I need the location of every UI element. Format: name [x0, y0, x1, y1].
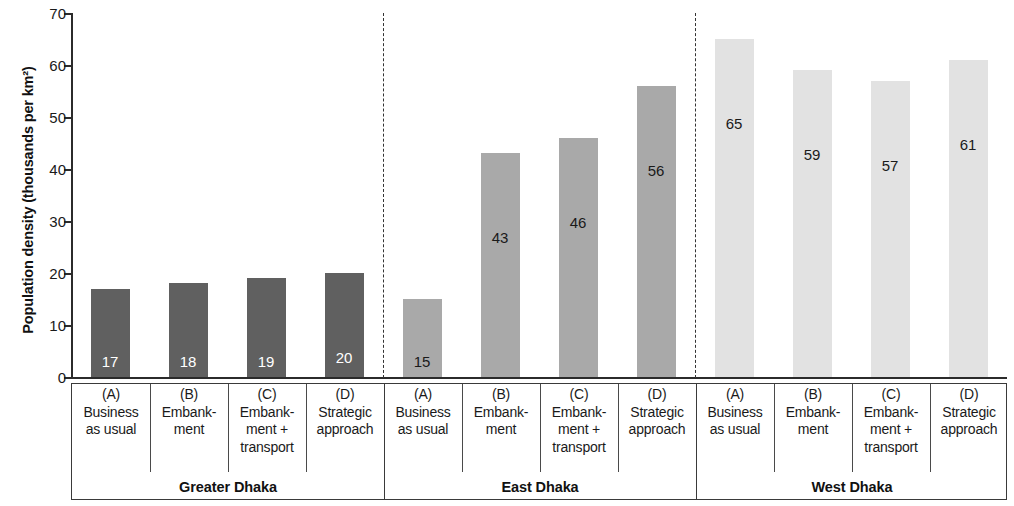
cell-name: Embank-ment [462, 404, 540, 439]
cell-letter: (B) [774, 386, 852, 404]
cell-name: Embank-ment +transport [852, 404, 930, 457]
bar-value-label: 17 [91, 354, 130, 369]
cell-name: Embank-ment +transport [540, 404, 618, 457]
table-cell: (A)Businessas usual [696, 386, 774, 439]
bar: 59 [793, 70, 832, 377]
y-tick-label: 70 [49, 5, 66, 22]
cell-letter: (D) [306, 386, 384, 404]
group-label: West Dhaka [696, 479, 1008, 495]
bar-value-label: 19 [247, 354, 286, 369]
cell-name: Businessas usual [696, 404, 774, 439]
category-table: (A)Businessas usual(B)Embank-ment(C)Emba… [71, 383, 1007, 500]
y-tick-label: 20 [49, 265, 66, 282]
cell-name: Embank-ment [150, 404, 228, 439]
cell-name: Embank-ment +transport [228, 404, 306, 457]
cell-letter: (C) [540, 386, 618, 404]
bar: 65 [715, 39, 754, 377]
bar-value-label: 57 [871, 158, 910, 173]
bar-chart: Population density (thousands per km²) 0… [0, 0, 1014, 506]
table-cell: (B)Embank-ment [774, 386, 852, 439]
y-axis-title: Population density (thousands per km²) [20, 0, 36, 400]
cell-letter: (D) [930, 386, 1008, 404]
table-cell: (D)Strategicapproach [306, 386, 384, 439]
bar: 56 [637, 86, 676, 377]
cell-name: Strategicapproach [618, 404, 696, 439]
y-tick-label: 0 [58, 369, 66, 386]
y-axis-line [71, 13, 73, 378]
bar: 19 [247, 278, 286, 377]
bar-value-label: 15 [403, 354, 442, 369]
bar-value-label: 20 [325, 350, 364, 365]
table-cell: (B)Embank-ment [150, 386, 228, 439]
group-divider-dashed [383, 13, 384, 378]
bar-value-label: 65 [715, 116, 754, 131]
x-axis-line [64, 377, 1007, 379]
cell-letter: (B) [462, 386, 540, 404]
table-cell: (D)Strategicapproach [930, 386, 1008, 439]
bar-value-label: 43 [481, 230, 520, 245]
bar: 20 [325, 273, 364, 377]
cell-letter: (C) [852, 386, 930, 404]
table-cell: (C)Embank-ment +transport [852, 386, 930, 456]
bar: 17 [91, 289, 130, 377]
group-label: Greater Dhaka [72, 479, 384, 495]
bar: 57 [871, 81, 910, 377]
table-cell: (C)Embank-ment +transport [540, 386, 618, 456]
cell-letter: (D) [618, 386, 696, 404]
bar-value-label: 61 [949, 137, 988, 152]
bar-value-label: 46 [559, 215, 598, 230]
y-tick-label: 50 [49, 109, 66, 126]
bar-value-label: 56 [637, 163, 676, 178]
y-tick-label: 10 [49, 317, 66, 334]
bar: 43 [481, 153, 520, 377]
group-divider-dashed [695, 13, 696, 378]
bar: 15 [403, 299, 442, 377]
y-tick-label: 60 [49, 57, 66, 74]
cell-name: Businessas usual [72, 404, 150, 439]
table-cell: (C)Embank-ment +transport [228, 386, 306, 456]
bar: 46 [559, 138, 598, 377]
cell-name: Embank-ment [774, 404, 852, 439]
cell-letter: (A) [72, 386, 150, 404]
cell-name: Strategicapproach [930, 404, 1008, 439]
bar: 18 [169, 283, 208, 377]
cell-letter: (A) [696, 386, 774, 404]
bar: 61 [949, 60, 988, 377]
bar-value-label: 59 [793, 147, 832, 162]
table-cell: (A)Businessas usual [72, 386, 150, 439]
table-cell: (D)Strategicapproach [618, 386, 696, 439]
cell-letter: (C) [228, 386, 306, 404]
y-tick-label: 40 [49, 161, 66, 178]
table-cell: (B)Embank-ment [462, 386, 540, 439]
group-label: East Dhaka [384, 479, 696, 495]
cell-name: Strategicapproach [306, 404, 384, 439]
plot-area: 010203040506070 171819201543465665595761 [71, 13, 1007, 378]
cell-letter: (B) [150, 386, 228, 404]
table-cell: (A)Businessas usual [384, 386, 462, 439]
y-tick-label: 30 [49, 213, 66, 230]
cell-letter: (A) [384, 386, 462, 404]
bar-value-label: 18 [169, 354, 208, 369]
cell-name: Businessas usual [384, 404, 462, 439]
